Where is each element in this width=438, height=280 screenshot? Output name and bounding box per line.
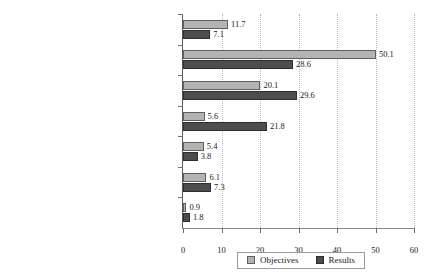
legend-item-results: Results xyxy=(316,255,356,265)
bar-objectives-2 xyxy=(183,81,260,90)
gridline-30 xyxy=(299,14,300,228)
bar-objectives-3 xyxy=(183,112,205,121)
x-tick-label-10: 10 xyxy=(217,245,226,255)
bar-value-results-4: 3.8 xyxy=(201,152,212,161)
x-tick-50 xyxy=(376,228,377,233)
x-tick-40 xyxy=(337,228,338,233)
bar-value-results-6: 1.8 xyxy=(193,213,204,222)
y-tick-4 xyxy=(178,136,183,137)
bar-objectives-4 xyxy=(183,142,204,151)
gridline-60 xyxy=(414,14,415,228)
bar-value-results-1: 28.6 xyxy=(296,60,311,69)
y-tick-6 xyxy=(178,197,183,198)
bar-results-3 xyxy=(183,122,267,131)
bar-objectives-0 xyxy=(183,20,228,29)
y-tick-3 xyxy=(178,106,183,107)
bar-value-objectives-1: 50.1 xyxy=(379,50,394,59)
bar-results-1 xyxy=(183,60,293,69)
bar-results-6 xyxy=(183,213,190,222)
bar-value-objectives-4: 5.4 xyxy=(207,142,218,151)
bar-objectives-1 xyxy=(183,50,376,59)
legend-item-objectives: Objectives xyxy=(247,255,299,265)
gridline-40 xyxy=(337,14,338,228)
bar-value-objectives-0: 11.7 xyxy=(231,20,246,29)
x-tick-10 xyxy=(222,228,223,233)
bar-value-results-0: 7.1 xyxy=(213,30,224,39)
bar-value-results-5: 7.3 xyxy=(214,183,225,192)
plot-area: 0102030405060 11.77.150.128.620.129.65.6… xyxy=(183,14,414,228)
legend-swatch-results xyxy=(316,256,324,264)
x-tick-20 xyxy=(260,228,261,233)
chart-legend: ObjectivesResults xyxy=(237,252,365,269)
bar-value-objectives-2: 20.1 xyxy=(263,81,278,90)
bar-results-2 xyxy=(183,91,297,100)
y-tick-0 xyxy=(178,14,183,15)
gridline-50 xyxy=(376,14,377,228)
legend-label-objectives: Objectives xyxy=(260,255,299,265)
bar-objectives-5 xyxy=(183,173,206,182)
y-tick-1 xyxy=(178,45,183,46)
bar-value-results-3: 21.8 xyxy=(270,122,285,131)
legend-label-results: Results xyxy=(329,255,356,265)
y-tick-2 xyxy=(178,75,183,76)
x-tick-30 xyxy=(299,228,300,233)
bar-objectives-6 xyxy=(183,203,186,212)
bar-value-results-2: 29.6 xyxy=(300,91,315,100)
x-tick-label-60: 60 xyxy=(410,245,419,255)
x-tick-label-0: 0 xyxy=(181,245,185,255)
horizontal-bar-chart: 0102030405060 11.77.150.128.620.129.65.6… xyxy=(0,0,438,280)
bar-value-objectives-3: 5.6 xyxy=(208,112,219,121)
x-tick-0 xyxy=(183,228,184,233)
bar-value-objectives-5: 6.1 xyxy=(209,173,220,182)
bar-results-0 xyxy=(183,30,210,39)
x-tick-label-50: 50 xyxy=(371,245,380,255)
bar-results-5 xyxy=(183,183,211,192)
bar-results-4 xyxy=(183,152,198,161)
legend-swatch-objectives xyxy=(247,256,255,264)
bar-value-objectives-6: 0.9 xyxy=(189,203,200,212)
y-tick-5 xyxy=(178,167,183,168)
x-tick-60 xyxy=(414,228,415,233)
